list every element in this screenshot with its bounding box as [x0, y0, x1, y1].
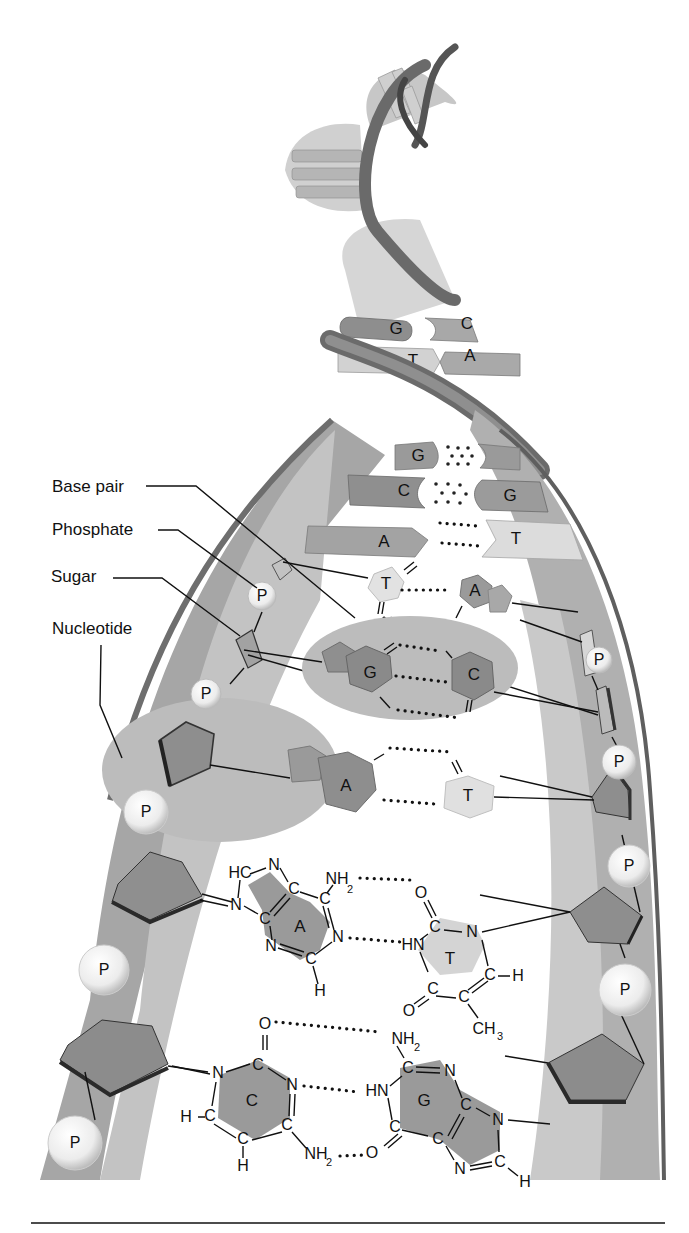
upper-helix: G C T A: [285, 47, 540, 470]
svg-text:C: C: [246, 1091, 258, 1110]
svg-text:NH: NH: [304, 1145, 327, 1162]
svg-text:P: P: [594, 651, 605, 668]
phosphate-icon: P: [608, 845, 650, 887]
svg-text:C: C: [389, 1118, 401, 1135]
svg-text:HN: HN: [365, 1082, 388, 1099]
svg-text:H: H: [512, 967, 524, 984]
svg-text:N: N: [230, 896, 242, 913]
svg-text:C: C: [494, 1153, 506, 1170]
svg-text:P: P: [201, 685, 212, 702]
svg-text:T: T: [463, 786, 473, 805]
svg-text:O: O: [415, 884, 427, 901]
svg-text:C: C: [427, 980, 439, 997]
svg-text:C: C: [204, 1107, 216, 1124]
svg-text:A: A: [340, 776, 352, 795]
svg-text:C: C: [398, 481, 410, 500]
svg-text:O: O: [366, 1144, 378, 1161]
svg-text:A: A: [294, 917, 306, 936]
svg-text:CH: CH: [472, 1020, 495, 1037]
dna-diagram: G C T A G: [0, 0, 689, 1233]
svg-text:G: G: [363, 663, 376, 682]
svg-text:C: C: [288, 880, 300, 897]
svg-text:3: 3: [497, 1030, 503, 1042]
svg-text:N: N: [268, 856, 280, 873]
phosphate-icon: P: [248, 582, 276, 610]
svg-text:2: 2: [414, 1041, 420, 1053]
rung-g-dots: G: [395, 442, 520, 470]
svg-text:C: C: [468, 665, 480, 684]
phosphate-icon: P: [586, 647, 612, 673]
svg-text:2: 2: [326, 1156, 332, 1168]
svg-text:C: C: [237, 1130, 249, 1147]
svg-text:C: C: [460, 1096, 472, 1113]
svg-text:A: A: [464, 346, 476, 365]
svg-text:A: A: [469, 581, 481, 600]
svg-text:N: N: [454, 1160, 466, 1177]
svg-text:C: C: [461, 314, 473, 333]
svg-text:G: G: [503, 486, 516, 505]
svg-text:P: P: [614, 753, 625, 770]
svg-text:P: P: [620, 981, 631, 998]
svg-text:P: P: [99, 961, 110, 978]
svg-text:HC: HC: [228, 864, 251, 881]
svg-text:H: H: [314, 982, 326, 999]
svg-text:N: N: [212, 1064, 224, 1081]
svg-text:NH: NH: [391, 1030, 414, 1047]
svg-text:C: C: [402, 1059, 414, 1076]
svg-text:C: C: [432, 1130, 444, 1147]
phosphate-icon: P: [602, 745, 636, 779]
label-base-pair: Base pair: [52, 477, 124, 496]
svg-text:C: C: [458, 988, 470, 1005]
svg-text:N: N: [286, 1076, 298, 1093]
phosphate-icon: P: [79, 945, 129, 995]
svg-text:C: C: [319, 890, 331, 907]
label-nucleotide: Nucleotide: [52, 619, 132, 638]
svg-text:C: C: [259, 910, 271, 927]
phosphate-icon: P: [599, 964, 651, 1016]
phosphate-icon: P: [191, 679, 221, 709]
label-phosphate: Phosphate: [52, 520, 133, 539]
label-sugar: Sugar: [51, 567, 97, 586]
svg-text:O: O: [259, 1015, 271, 1032]
svg-text:O: O: [403, 1002, 415, 1019]
phosphate-icon: P: [124, 790, 168, 834]
svg-text:T: T: [445, 949, 455, 968]
svg-text:G: G: [389, 319, 402, 338]
svg-text:H: H: [180, 1108, 192, 1125]
rung-a-t: A T: [305, 520, 583, 560]
svg-text:2: 2: [347, 883, 353, 895]
svg-text:N: N: [444, 1062, 456, 1079]
svg-text:P: P: [624, 857, 635, 874]
svg-text:N: N: [265, 937, 277, 954]
svg-text:P: P: [70, 1134, 81, 1151]
svg-text:T: T: [511, 529, 521, 548]
svg-text:T: T: [381, 574, 391, 593]
svg-text:N: N: [492, 1111, 504, 1128]
svg-text:C: C: [305, 950, 317, 967]
svg-text:C: C: [281, 1116, 293, 1133]
svg-text:N: N: [466, 923, 478, 940]
rung-g-c: G C: [339, 314, 478, 342]
svg-text:G: G: [411, 446, 424, 465]
svg-text:P: P: [141, 803, 152, 820]
svg-text:A: A: [378, 532, 390, 551]
cytosine-guanine-structure: O C N N C C H C H C NH 2 NH 2 C N HN G C…: [172, 1015, 550, 1190]
svg-text:H: H: [237, 1157, 249, 1174]
nucleotide-highlight: A T: [102, 698, 594, 842]
svg-text:P: P: [257, 587, 268, 604]
svg-text:C: C: [429, 918, 441, 935]
phosphate-icon: P: [48, 1116, 102, 1170]
svg-text:NH: NH: [325, 870, 348, 887]
svg-text:C: C: [484, 966, 496, 983]
adenine-thymine-structure: HC N N C C C A NH 2 N N C H O C N HN T C…: [200, 856, 570, 1042]
svg-text:N: N: [332, 928, 344, 945]
svg-text:G: G: [417, 1091, 430, 1110]
svg-text:H: H: [519, 1173, 531, 1190]
svg-text:C: C: [252, 1056, 264, 1073]
